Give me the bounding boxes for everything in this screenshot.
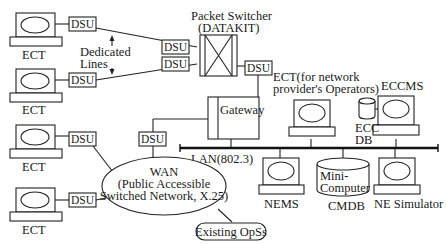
eccms: ECCMS	[373, 79, 423, 135]
dsu-label: DSU	[164, 41, 188, 53]
dsu-2: DSU	[69, 73, 96, 87]
dsu-label: DSU	[71, 74, 95, 86]
ne-simulator-label: NE Simulator	[374, 197, 444, 211]
ect-terminal-2: ECT	[10, 69, 62, 117]
existing-opss: Existing OpSs	[195, 223, 267, 240]
ect-label: ECT	[22, 223, 46, 237]
dsu-3: DSU	[69, 132, 96, 146]
gateway-label: Gateway	[220, 103, 265, 117]
existing-opss-label: Existing OpSs	[195, 225, 267, 239]
cmdb-label: CMDB	[328, 199, 365, 213]
operator-ect-label-2: provider's Operators)	[273, 82, 379, 96]
ect-label: ECT	[22, 160, 46, 174]
eccms-label: ECCMS	[381, 79, 423, 93]
dsu-switch-top: DSU	[162, 40, 189, 54]
ect-terminal-1: ECT	[10, 13, 62, 62]
ect-label: ECT	[22, 48, 46, 62]
nems: NEMS	[259, 158, 304, 211]
ect-terminal-3: ECT	[10, 125, 62, 174]
dsu-label: DSU	[71, 18, 95, 30]
dsu-label: DSU	[247, 62, 271, 74]
ne-simulator: NE Simulator	[374, 158, 444, 211]
dsu-switch-right: DSU	[245, 61, 272, 75]
nems-label: NEMS	[264, 197, 299, 211]
gateway: Gateway	[208, 97, 265, 139]
dedicated-lines-label-2: Lines	[80, 57, 108, 71]
minicomputer-cmdb: Mini- Computer CMDB	[317, 158, 371, 213]
network-architecture-diagram: LAN(802.3) ECT ECT ECT ECT DSU DSU DSU	[0, 0, 446, 244]
dedicated-lines-annotation: Dedicated Lines	[79, 35, 131, 75]
wan-label-3: Switched Network, X.25)	[100, 189, 228, 203]
wan-cloud: WAN (Public Accessible Switched Network,…	[100, 157, 228, 215]
minicomputer-label-2: Computer	[320, 181, 371, 195]
dsu-label: DSU	[71, 194, 95, 206]
dsu-label: DSU	[164, 58, 188, 70]
dsu-label: DSU	[71, 133, 95, 145]
packet-switcher-subtitle: (DATAKIT)	[198, 21, 259, 35]
ect-terminal-4: ECT	[10, 188, 62, 237]
dsu-label: DSU	[141, 133, 165, 145]
ecc-db-label-2: DB	[355, 133, 372, 147]
ect-label: ECT	[22, 103, 46, 117]
dsu-1: DSU	[69, 17, 96, 31]
dsu-4: DSU	[69, 193, 96, 207]
dsu-wan: DSU	[139, 132, 166, 146]
dsu-switch-bottom: DSU	[162, 57, 189, 71]
ecc-db: ECC DB	[355, 98, 379, 147]
